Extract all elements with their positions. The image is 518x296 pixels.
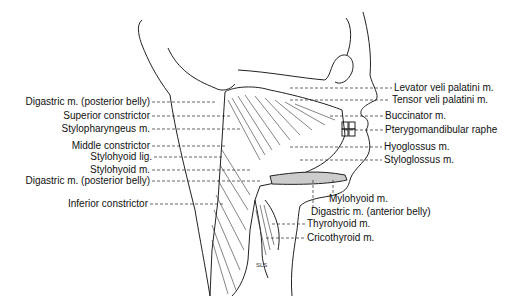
label-digastric-anterior-belly: Digastric m. (anterior belly): [311, 206, 430, 217]
label-buccinator: Buccinator m.: [385, 110, 446, 121]
label-tensor-veli-palatini: Tensor veli palatini m.: [392, 94, 488, 105]
label-cricothyroid: Cricothyroid m.: [307, 232, 374, 243]
anatomy-figure: SLS Digastric m. (posterior belly) Super…: [0, 0, 518, 296]
label-hyoglossus: Hyoglossus m.: [384, 141, 450, 152]
label-stylohyoid-ligament: Stylohyoid lig.: [90, 151, 152, 162]
label-stylopharyngeus: Stylopharyngeus m.: [62, 123, 150, 134]
label-stylohyoid-muscle: Stylohyoid m.: [90, 164, 150, 175]
label-digastric-posterior-belly-upper: Digastric m. (posterior belly): [26, 96, 150, 107]
label-levator-veli-palatini: Levator veli palatini m.: [394, 82, 494, 93]
label-styloglossus: Styloglossus m.: [384, 154, 454, 165]
label-inferior-constrictor: Inferior constrictor: [68, 198, 148, 209]
head-outline-back: [138, 20, 170, 95]
label-thyrohyoid: Thyrohyoid m.: [307, 218, 370, 229]
label-digastric-posterior-belly-lower: Digastric m. (posterior belly): [26, 175, 150, 186]
muscle-hatching: [212, 95, 335, 294]
artist-signature: SLS: [256, 262, 267, 268]
label-pterygomandibular-raphe: Pterygomandibular raphe: [385, 124, 497, 135]
label-middle-constrictor: Middle constrictor: [72, 140, 150, 151]
label-superior-constrictor: Superior constrictor: [63, 110, 150, 121]
label-mylohyoid: Mylohyoid m.: [329, 193, 388, 204]
